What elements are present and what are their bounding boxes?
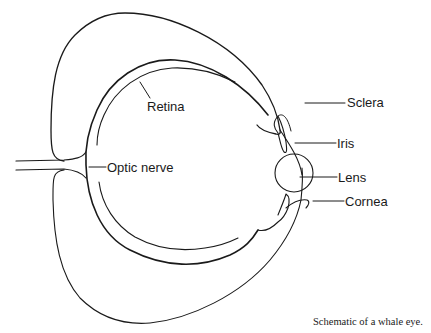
eye-schematic-drawing [0, 0, 431, 333]
figure-caption: Schematic of a whale eye. [313, 317, 423, 328]
lens-label: Lens [338, 171, 366, 184]
whale-eye-diagram: Retina Optic nerve Sclera Iris Lens Corn… [0, 0, 431, 333]
optic-nerve-upper [16, 152, 86, 161]
retina-leader [140, 82, 150, 98]
cornea-curve [280, 130, 302, 175]
optic-nerve-label: Optic nerve [107, 161, 173, 174]
lens-circle [275, 154, 313, 192]
retina-arc-lower [99, 182, 238, 250]
iris-lower [258, 194, 289, 231]
optic-nerve-lower [16, 169, 86, 178]
iris-label: Iris [337, 137, 354, 150]
sclera-outer-lower [53, 168, 302, 323]
sclera-label: Sclera [347, 96, 384, 109]
sclera-outer-upper [51, 13, 280, 161]
cornea-label: Cornea [345, 195, 388, 208]
retina-label: Retina [147, 100, 185, 113]
